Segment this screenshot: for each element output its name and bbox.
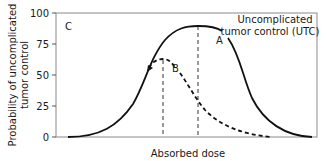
- curve-label-a: A: [216, 35, 223, 46]
- y-tick-25: 25: [36, 101, 49, 112]
- annotation-line2: tumor control (UTC): [221, 26, 320, 37]
- curve-a: [68, 26, 312, 137]
- panel-label: C: [65, 21, 72, 32]
- curve-b: [149, 59, 272, 137]
- y-tick-100: 100: [30, 8, 49, 19]
- y-axis: [52, 13, 56, 137]
- annotation-line1: Uncomplicated: [238, 14, 313, 25]
- y-tick-50: 50: [36, 70, 49, 81]
- y-axis-label-line1: Probability of uncomplicated: [7, 4, 18, 147]
- utc-chart: 100 75 50 25 0 Probability of uncomplica…: [0, 0, 328, 161]
- y-tick-0: 0: [43, 132, 49, 143]
- x-axis-label: Absorbed dose: [151, 148, 225, 159]
- y-axis-label-line2: tumor control: [19, 41, 30, 109]
- y-tick-75: 75: [36, 39, 49, 50]
- curve-label-b: B: [172, 63, 179, 74]
